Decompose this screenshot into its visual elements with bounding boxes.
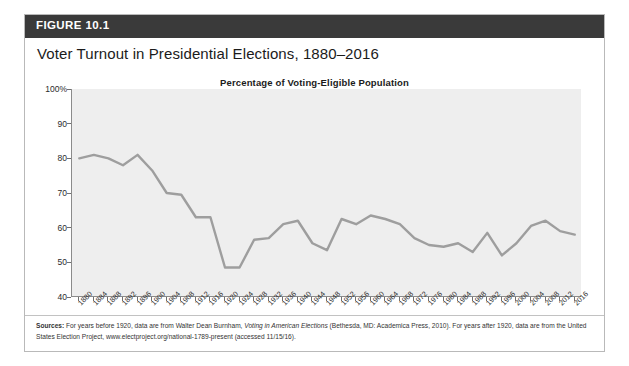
x-tick-mark (195, 297, 196, 301)
sources-divider (25, 315, 604, 316)
x-tick-mark (180, 297, 181, 301)
x-tick-mark (224, 297, 225, 301)
x-tick-mark (384, 297, 385, 301)
turnout-line-chart (72, 89, 582, 297)
x-tick-mark (515, 297, 516, 301)
x-tick-mark (472, 297, 473, 301)
turnout-series-line (79, 155, 574, 268)
x-tick-mark (399, 297, 400, 301)
sources-line1-b: (Bethesda, MD: Academica Press, 2010). F… (328, 322, 495, 329)
x-tick-mark (209, 297, 210, 301)
x-tick-mark (574, 297, 575, 301)
x-tick-mark (443, 297, 444, 301)
sources-line1-a: For years before 1920, data are from Wal… (64, 322, 244, 329)
x-tick-mark (78, 297, 79, 301)
y-tick-label: 90 (29, 119, 67, 129)
x-tick-mark (501, 297, 502, 301)
figure-card: FIGURE 10.1 Voter Turnout in Presidentia… (24, 14, 605, 352)
x-tick-mark (151, 297, 152, 301)
x-tick-mark (122, 297, 123, 301)
y-tick-label: 100% (29, 84, 67, 94)
x-tick-mark (166, 297, 167, 301)
x-tick-mark (530, 297, 531, 301)
x-tick-mark (297, 297, 298, 301)
plot-area (71, 89, 581, 297)
x-tick-mark (370, 297, 371, 301)
y-tick-label: 80 (29, 153, 67, 163)
y-tick-label: 70 (29, 188, 67, 198)
y-tick-label: 60 (29, 223, 67, 233)
y-tick-label: 50 (29, 257, 67, 267)
y-axis-labels: 405060708090100% (25, 89, 67, 297)
x-tick-mark (355, 297, 356, 301)
x-tick-mark (341, 297, 342, 301)
x-tick-mark (413, 297, 414, 301)
y-tick-label: 40 (29, 292, 67, 302)
sources-heading: Sources: (36, 322, 64, 329)
x-tick-mark (457, 297, 458, 301)
x-tick-mark (137, 297, 138, 301)
x-tick-mark (107, 297, 108, 301)
x-tick-mark (326, 297, 327, 301)
x-tick-mark (253, 297, 254, 301)
x-tick-mark (311, 297, 312, 301)
x-tick-mark (93, 297, 94, 301)
x-tick-mark (559, 297, 560, 301)
sources-line1-italic: Voting in American Elections (244, 322, 327, 329)
x-tick-mark (239, 297, 240, 301)
x-tick-mark (545, 297, 546, 301)
x-tick-mark (268, 297, 269, 301)
x-tick-mark (486, 297, 487, 301)
x-tick-mark (282, 297, 283, 301)
sources-note: Sources: For years before 1920, data are… (36, 321, 592, 342)
x-tick-mark (428, 297, 429, 301)
chart-plot-wrapper: 405060708090100% 18801884188818921896190… (25, 15, 606, 353)
